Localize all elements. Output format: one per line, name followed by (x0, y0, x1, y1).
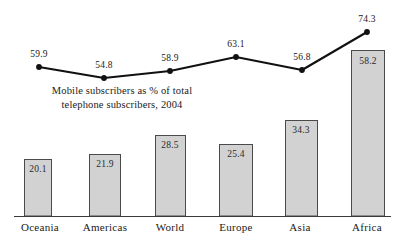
marker-oceania (36, 64, 42, 70)
annotation-line-1: Mobile subscribers as % of total (22, 84, 222, 98)
category-label-americas: Americas (72, 221, 138, 233)
marker-world (167, 68, 173, 74)
line-value-americas: 54.8 (80, 60, 128, 70)
bar-value-asia: 34.3 (277, 125, 325, 135)
category-label-europe: Europe (204, 221, 268, 233)
marker-europe (233, 54, 239, 60)
line-value-asia: 56.8 (278, 52, 326, 62)
category-label-asia: Asia (268, 221, 332, 233)
line-value-world: 58.9 (146, 53, 194, 63)
plot-area: 20.1 21.9 28.5 25.4 34.3 58.2 59.9 54.8 … (0, 0, 406, 250)
line-value-europe: 63.1 (212, 39, 260, 49)
bar-africa (352, 51, 385, 217)
category-label-world: World (138, 221, 202, 233)
marker-asia (299, 67, 305, 73)
category-label-africa: Africa (335, 221, 399, 233)
marker-africa (364, 29, 370, 35)
chart-graphics (0, 0, 406, 250)
bar-group (25, 51, 385, 217)
bar-value-oceania: 20.1 (14, 164, 62, 174)
chart-container: 20.1 21.9 28.5 25.4 34.3 58.2 59.9 54.8 … (0, 0, 406, 250)
annotation-line-2: telephone subscribers, 2004 (22, 98, 222, 112)
series-annotation: Mobile subscribers as % of total telepho… (22, 84, 222, 112)
category-label-oceania: Oceania (8, 221, 72, 233)
line-value-africa: 74.3 (343, 14, 391, 24)
bar-value-africa: 58.2 (344, 56, 392, 66)
bar-value-americas: 21.9 (81, 159, 129, 169)
bar-value-world: 28.5 (146, 140, 194, 150)
bar-value-europe: 25.4 (212, 149, 260, 159)
marker-americas (101, 75, 107, 81)
line-value-oceania: 59.9 (15, 49, 63, 59)
